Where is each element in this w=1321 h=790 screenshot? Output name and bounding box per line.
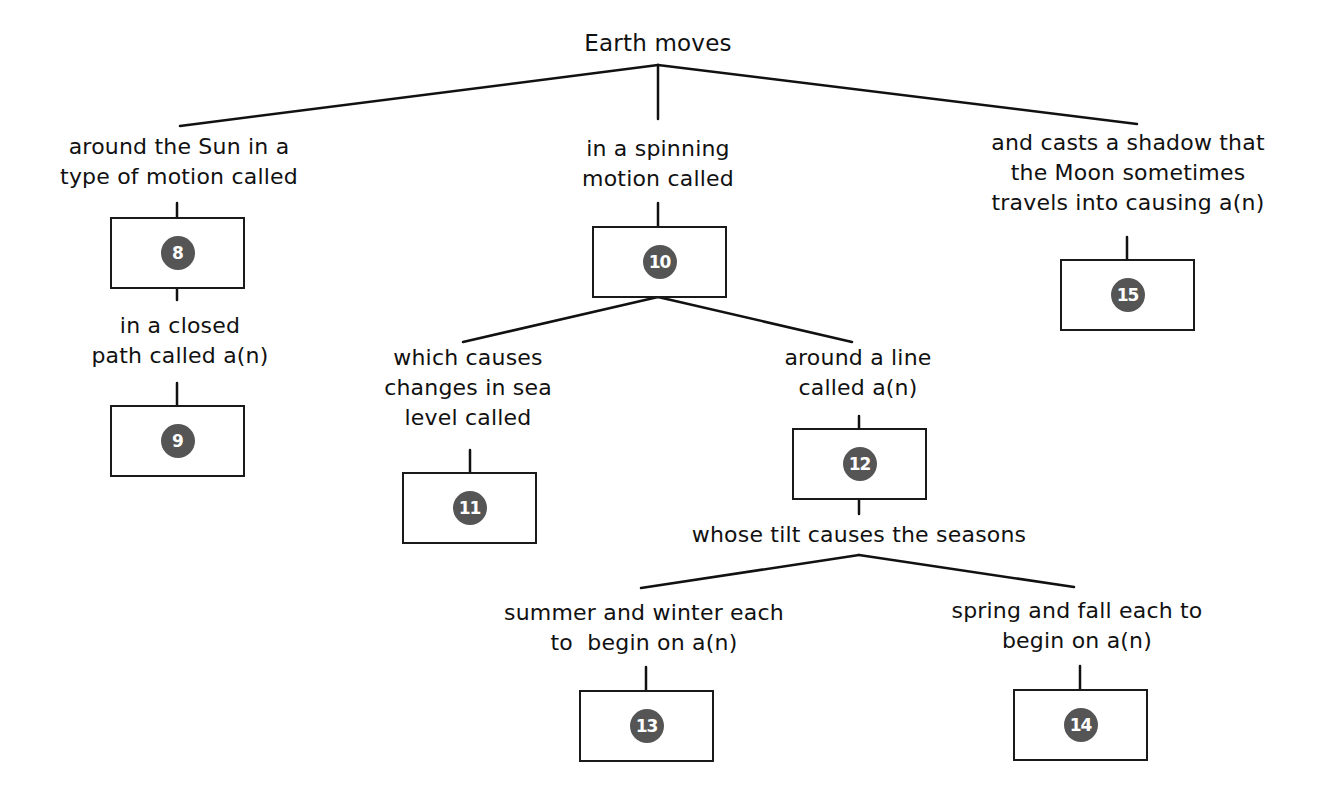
box-8[interactable]: 8 [110,217,245,289]
label-sea-level: which causes changes in sea level called [384,343,552,433]
label-shadow: and casts a shadow that the Moon sometim… [991,128,1265,218]
number-badge-9: 9 [161,424,195,458]
label-spring-fall: spring and fall each to begin on a(n) [951,596,1202,656]
number-badge-13: 13 [630,709,664,743]
box-13[interactable]: 13 [579,690,714,762]
connector-box10-right [658,297,852,342]
box-12[interactable]: 12 [792,428,927,500]
label-summer-winter: summer and winter each to begin on a(n) [504,598,784,658]
number-badge-8: 8 [161,236,195,270]
number-badge-15: 15 [1111,278,1145,312]
connector-box10-left [463,297,658,342]
connector-root-left [180,65,658,126]
number-badge-11: 11 [453,491,487,525]
label-tilt: whose tilt causes the seasons [692,520,1027,550]
connector-lines [0,0,1321,790]
box-14[interactable]: 14 [1013,689,1148,761]
box-11[interactable]: 11 [402,472,537,544]
label-closed-path: in a closed path called a(n) [91,311,268,371]
number-badge-12: 12 [843,447,877,481]
root-label: Earth moves [584,28,731,58]
label-spinning: in a spinning motion called [582,134,734,194]
box-9[interactable]: 9 [110,405,245,477]
box-10[interactable]: 10 [592,226,727,298]
label-around-sun: around the Sun in a type of motion calle… [60,132,298,192]
connector-seasons-left [641,555,859,588]
number-badge-10: 10 [643,245,677,279]
box-15[interactable]: 15 [1060,259,1195,331]
number-badge-14: 14 [1064,708,1098,742]
label-around-line: around a line called a(n) [784,343,931,403]
connector-root-right [658,65,1137,124]
connector-seasons-right [859,555,1074,587]
concept-map: Earth moves around the Sun in a type of … [0,0,1321,790]
